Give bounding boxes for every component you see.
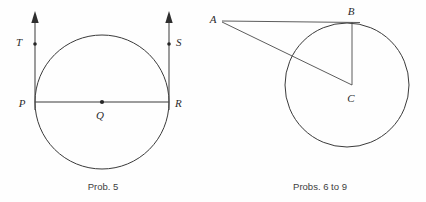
figure-probs-6-to-9: A B C Probs. 6 to 9 xyxy=(209,5,409,192)
circle-c xyxy=(285,23,409,147)
point-label-r: R xyxy=(174,97,182,109)
caption-prob-5: Prob. 5 xyxy=(88,181,119,192)
point-label-b: B xyxy=(348,5,355,17)
point-label-t: T xyxy=(16,36,23,48)
point-label-c: C xyxy=(347,92,355,104)
figure-prob-5: T S P R Q Prob. 5 xyxy=(16,11,182,192)
segment-ac xyxy=(222,22,352,85)
segment-ab xyxy=(222,21,360,23)
caption-probs-6-to-9: Probs. 6 to 9 xyxy=(293,181,347,192)
point-label-p: P xyxy=(18,97,26,109)
point-label-q: Q xyxy=(96,109,104,121)
tangent-ray-right xyxy=(165,11,172,110)
point-label-s: S xyxy=(176,36,182,48)
arrow-up-icon-right xyxy=(165,11,172,23)
point-dot-t xyxy=(33,42,37,46)
figure-sheet: T S P R Q Prob. 5 A B C Probs. 6 to 9 xyxy=(0,0,426,202)
point-label-a: A xyxy=(209,13,217,25)
geometry-figures-canvas: T S P R Q Prob. 5 A B C Probs. 6 to 9 xyxy=(0,0,426,202)
point-dot-q xyxy=(100,100,104,104)
tangent-ray-left xyxy=(31,11,38,110)
arrow-up-icon-left xyxy=(31,11,38,23)
point-dot-s xyxy=(167,42,171,46)
